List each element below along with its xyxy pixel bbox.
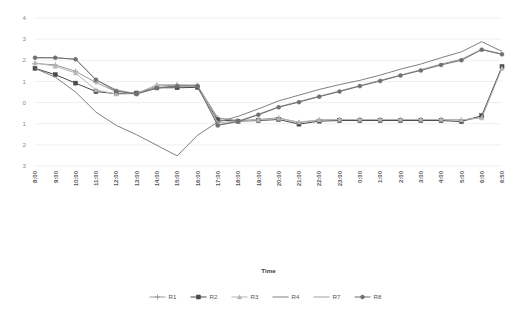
x-axis-tick-label: 10:00 bbox=[73, 170, 79, 186]
line-chart: 432101238:009:0010:0011:0012:0013:0014:0… bbox=[0, 0, 510, 322]
x-axis-tick-label: 20:00 bbox=[276, 170, 282, 186]
legend-item-R3[interactable]: R3 bbox=[232, 293, 259, 300]
data-point-marker bbox=[361, 295, 365, 299]
y-axis-tick-label: 2 bbox=[23, 56, 27, 63]
x-axis-tick-label: 22:00 bbox=[316, 170, 322, 186]
chart-container: 432101238:009:0010:0011:0012:0013:0014:0… bbox=[0, 0, 510, 322]
legend-item-R1[interactable]: R1 bbox=[150, 293, 177, 300]
x-axis-tick-label: 4:00 bbox=[438, 170, 444, 183]
x-axis-tick-label: 21:00 bbox=[296, 170, 302, 186]
x-axis-tick-label: 12:00 bbox=[113, 170, 119, 186]
x-axis-tick-label: 3:00 bbox=[418, 170, 424, 183]
legend: R1R2R3R4R7R8 bbox=[150, 293, 382, 300]
y-axis-tick-label: 0 bbox=[23, 99, 27, 106]
x-axis-tick-label: 2:00 bbox=[398, 170, 404, 183]
data-point-marker bbox=[317, 95, 321, 99]
data-point-marker bbox=[256, 113, 260, 117]
data-point-marker bbox=[197, 295, 201, 299]
x-axis-tick-label: 16:00 bbox=[195, 170, 201, 186]
data-point-marker bbox=[398, 74, 402, 78]
data-point-marker bbox=[94, 78, 98, 82]
legend-item-R4[interactable]: R4 bbox=[273, 293, 300, 300]
data-point-marker bbox=[419, 68, 423, 72]
x-axis-tick-label: 18:00 bbox=[235, 170, 241, 186]
data-point-marker bbox=[297, 100, 301, 104]
legend-item-R2[interactable]: R2 bbox=[191, 293, 218, 300]
data-point-marker bbox=[480, 48, 484, 52]
series-R4 bbox=[35, 42, 502, 156]
data-point-marker bbox=[175, 84, 179, 88]
x-axis-title: Time bbox=[261, 267, 276, 274]
data-point-marker bbox=[195, 84, 199, 88]
x-axis-tick-label: 5:00 bbox=[459, 170, 465, 183]
data-point-marker bbox=[33, 56, 37, 60]
x-axis-title-text: Time bbox=[261, 267, 276, 274]
x-axis-tick-labels: 8:009:0010:0011:0012:0013:0014:0015:0016… bbox=[32, 170, 505, 186]
x-axis-tick-label: 14:00 bbox=[154, 170, 160, 186]
data-point-marker bbox=[439, 63, 443, 67]
series-line bbox=[35, 63, 502, 122]
data-point-marker bbox=[114, 89, 118, 93]
y-axis-tick-label: 3 bbox=[23, 162, 27, 169]
x-axis-tick-label: 23:00 bbox=[337, 170, 343, 186]
y-axis-tick-label: 3 bbox=[23, 35, 27, 42]
x-axis-tick-label: 1:00 bbox=[377, 170, 383, 183]
series-line bbox=[35, 67, 502, 125]
x-axis-tick-label: 19:00 bbox=[256, 170, 262, 186]
data-point-marker bbox=[338, 90, 342, 94]
data-point-marker bbox=[74, 57, 78, 61]
data-point-marker bbox=[135, 92, 139, 96]
x-axis-tick-label: 9:00 bbox=[53, 170, 59, 183]
legend-label: R7 bbox=[333, 293, 341, 300]
x-axis-tick-label: 8:00 bbox=[32, 170, 38, 183]
y-axis-tick-label: 2 bbox=[23, 141, 27, 148]
x-axis-tick-label: 13:00 bbox=[134, 170, 140, 186]
y-axis-tick-label: 1 bbox=[23, 120, 27, 127]
data-point-marker bbox=[155, 86, 159, 90]
y-axis-tick-label: 1 bbox=[23, 78, 27, 85]
x-axis-tick-label: 15:00 bbox=[174, 170, 180, 186]
data-point-marker bbox=[216, 123, 220, 127]
series-R1 bbox=[32, 61, 504, 125]
x-axis-tick-label: 0:00 bbox=[357, 170, 363, 183]
data-point-marker bbox=[277, 105, 281, 109]
series-line bbox=[35, 42, 502, 156]
x-axis-tick-label: 17:00 bbox=[215, 170, 221, 186]
y-axis-tick-label: 4 bbox=[23, 14, 27, 21]
legend-item-R7[interactable]: R7 bbox=[314, 293, 341, 300]
data-point-marker bbox=[236, 120, 240, 124]
x-axis-tick-label: 11:00 bbox=[93, 170, 99, 186]
legend-item-R8[interactable]: R8 bbox=[355, 293, 382, 300]
legend-label: R4 bbox=[292, 293, 300, 300]
legend-label: R2 bbox=[210, 293, 218, 300]
data-point-marker bbox=[358, 84, 362, 88]
x-axis-tick-label: 6:50 bbox=[499, 170, 505, 183]
x-axis-tick-label: 6:00 bbox=[479, 170, 485, 183]
data-point-marker bbox=[378, 79, 382, 83]
data-point-marker bbox=[53, 56, 57, 60]
legend-label: R3 bbox=[251, 293, 259, 300]
legend-label: R1 bbox=[169, 293, 177, 300]
data-point-marker bbox=[459, 58, 463, 62]
legend-label: R8 bbox=[374, 293, 382, 300]
data-point-marker bbox=[74, 81, 78, 85]
data-point-marker bbox=[500, 52, 504, 56]
